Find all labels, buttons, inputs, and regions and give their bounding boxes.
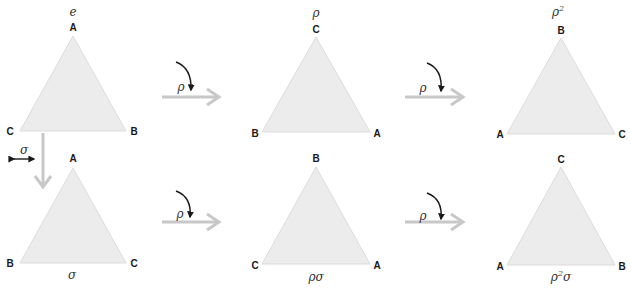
- vertex-label-right: A: [373, 128, 380, 139]
- vertex-label-left: C: [251, 260, 258, 271]
- vertex-label-left: B: [6, 258, 13, 269]
- triangle-rho-squared: ρ2 B A C: [496, 4, 625, 140]
- arrow-label: ρ: [176, 80, 184, 94]
- triangle-shape: [262, 167, 370, 264]
- rotation-arrow-rhosigma-to-rho2sigma: ρ: [405, 193, 463, 230]
- element-label: ρ: [311, 6, 319, 20]
- vertex-label-top: C: [557, 154, 564, 165]
- arrow-label: ρ: [418, 81, 426, 95]
- vertex-label-top: B: [312, 153, 319, 164]
- triangle-rho-squared-sigma: C A B ρ2σ: [496, 154, 625, 284]
- reflection-arrow-e-to-sigma: σ: [14, 133, 51, 187]
- vertex-label-right: B: [618, 261, 625, 272]
- arrow-label: ρ: [175, 207, 183, 221]
- vertex-label-top: B: [557, 25, 564, 36]
- element-label: ρ2: [551, 4, 564, 19]
- arrow-label: σ: [20, 143, 29, 157]
- vertex-label-left: C: [6, 126, 13, 137]
- vertex-label-top: A: [69, 22, 76, 33]
- vertex-label-right: C: [130, 258, 137, 269]
- triangle-shape: [507, 167, 615, 265]
- vertex-label-top: C: [312, 24, 319, 35]
- vertex-label-top: A: [69, 153, 76, 164]
- triangle-shape: [20, 168, 126, 263]
- d3-symmetry-diagram: e A C B ρ C B A ρ2 B A C A B C σ B C A ρ…: [0, 0, 631, 290]
- rotation-arrow-e-to-rho: ρ: [162, 62, 219, 105]
- vertex-label-left: B: [251, 128, 258, 139]
- triangle-rho-sigma: B C A ρσ: [251, 153, 380, 284]
- rotation-arrow-rho-to-rho2: ρ: [405, 63, 463, 105]
- triangle-shape: [20, 36, 126, 131]
- rotation-arrow-sigma-to-rhosigma: ρ: [162, 191, 219, 230]
- triangle-sigma: A B C σ: [6, 153, 137, 282]
- element-label: e: [69, 5, 76, 19]
- rotate-icon: [427, 193, 441, 219]
- triangle-shape: [262, 37, 370, 132]
- element-label: σ: [68, 268, 77, 282]
- vertex-label-left: A: [496, 129, 503, 140]
- element-label: ρσ: [307, 270, 324, 284]
- triangle-e: e A C B: [6, 5, 137, 137]
- arrow-label: ρ: [418, 209, 426, 223]
- triangle-shape: [507, 38, 615, 134]
- vertex-label-right: B: [130, 126, 137, 137]
- rotate-icon: [427, 63, 441, 91]
- vertex-label-right: A: [373, 260, 380, 271]
- vertex-label-right: C: [618, 129, 625, 140]
- triangle-rho: ρ C B A: [251, 6, 380, 139]
- vertex-label-left: A: [496, 261, 503, 272]
- element-label: ρ2σ: [550, 269, 572, 284]
